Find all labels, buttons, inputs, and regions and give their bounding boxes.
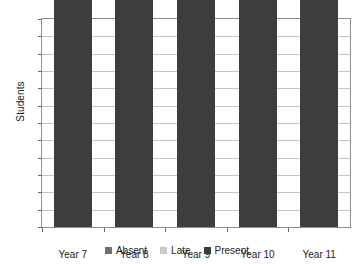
y-tick-mark (38, 158, 42, 159)
legend-label: Present (215, 245, 249, 256)
legend-swatch-icon (160, 247, 167, 254)
chart-legend: AbsentLatePresent (0, 245, 354, 256)
bar-segment-present (177, 0, 215, 227)
bar-group (115, 19, 153, 227)
bar-segment-present (239, 0, 277, 227)
bar-segment-present (54, 0, 92, 227)
y-tick-mark (38, 192, 42, 193)
y-tick-mark (38, 123, 42, 124)
x-tick-mark (42, 228, 43, 232)
y-tick-mark (38, 71, 42, 72)
bar-segment-present (115, 0, 153, 227)
legend-entry-present[interactable]: Present (204, 245, 249, 256)
y-tick-mark (38, 54, 42, 55)
y-tick-mark (38, 140, 42, 141)
bar-group (239, 19, 277, 227)
y-tick-mark (38, 36, 42, 37)
x-tick-mark (104, 228, 105, 232)
y-tick-mark (38, 106, 42, 107)
y-tick-mark (38, 88, 42, 89)
plot-area: 6065707580859095100105110115120 Year 7Ye… (41, 18, 351, 228)
bar-group (54, 19, 92, 227)
bar-segment-present (300, 0, 338, 227)
legend-swatch-icon (105, 247, 112, 254)
legend-label: Absent (116, 245, 147, 256)
y-tick-mark (38, 175, 42, 176)
legend-swatch-icon (204, 247, 211, 254)
bar-group (177, 19, 215, 227)
legend-label: Late (171, 245, 190, 256)
stacked-bar-chart: Students 6065707580859095100105110115120… (0, 0, 354, 264)
x-tick-mark (227, 228, 228, 232)
bar-group (300, 19, 338, 227)
legend-entry-absent[interactable]: Absent (105, 245, 147, 256)
legend-entry-late[interactable]: Late (160, 245, 190, 256)
y-tick-mark (38, 19, 42, 20)
x-tick-mark (288, 228, 289, 232)
y-tick-mark (38, 210, 42, 211)
x-tick-mark (165, 228, 166, 232)
y-axis-title: Students (15, 42, 26, 162)
